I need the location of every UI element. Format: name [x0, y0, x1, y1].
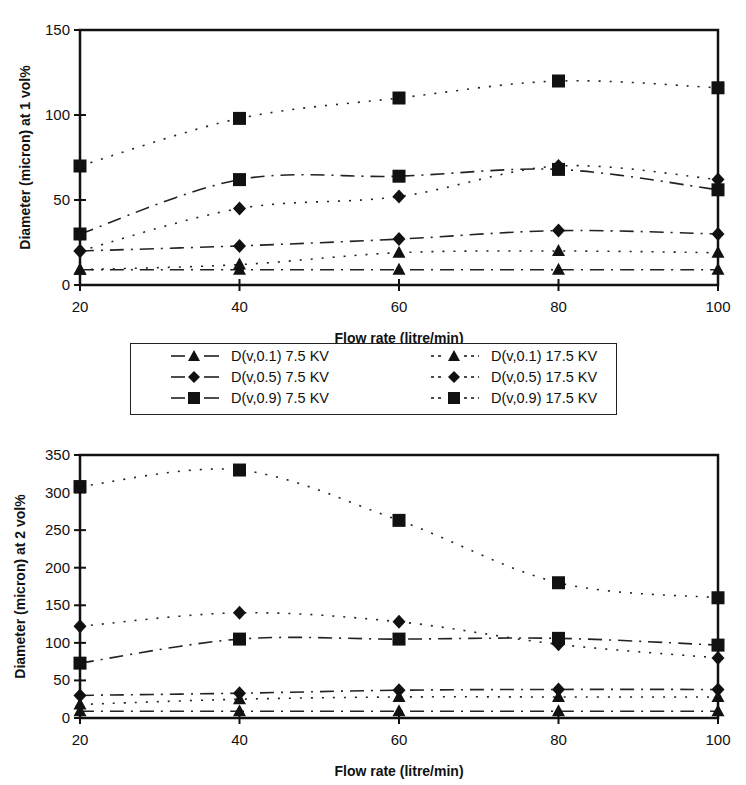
square-marker-icon: [393, 633, 406, 646]
legend: D(v,0.1) 7.5 KV D(v,0.1) 17.5 KV D(v,0.5…: [130, 343, 617, 415]
square-marker-icon: [233, 464, 246, 477]
y-tick-label: 0: [62, 709, 70, 726]
diamond-marker-icon: [712, 651, 725, 665]
triangle-marker-icon: [393, 263, 406, 275]
x-tick-label: 60: [391, 298, 408, 315]
legend-symbol-triangle-solid-icon: [169, 348, 231, 364]
legend-item-dv05-7.5kv: D(v,0.5) 7.5 KV: [169, 369, 329, 385]
square-marker-icon: [74, 160, 87, 173]
legend-symbol-diamond-solid-icon: [169, 369, 231, 385]
y-tick-label: 250: [45, 521, 70, 538]
triangle-marker-icon: [74, 697, 87, 709]
square-marker-icon: [712, 591, 725, 604]
series-0: [74, 704, 725, 716]
series-5: [74, 75, 725, 173]
legend-item-dv09-17.5kv: D(v,0.9) 17.5 KV: [429, 390, 597, 406]
legend-label: D(v,0.9) 17.5 KV: [491, 390, 597, 406]
y-tick-label: 100: [45, 106, 70, 123]
x-tick-label: 100: [705, 298, 730, 315]
chart-2-vol-percent: 05010015020025030035020406080100Flow rat…: [12, 446, 731, 779]
legend-symbol-square-solid-icon: [169, 390, 231, 406]
square-marker-icon: [74, 228, 87, 241]
x-tick-label: 80: [550, 298, 567, 315]
plot-frame: [80, 455, 718, 718]
triangle-marker-icon: [74, 263, 87, 275]
square-marker-icon: [552, 576, 565, 589]
diamond-marker-icon: [552, 224, 565, 238]
diamond-marker-icon: [233, 606, 246, 620]
y-tick-label: 200: [45, 559, 70, 576]
square-marker-icon: [712, 639, 725, 652]
series-2: [74, 632, 725, 670]
square-marker-icon: [74, 657, 87, 670]
diamond-marker-icon: [393, 232, 406, 246]
triangle-marker-icon: [712, 246, 725, 258]
square-marker-icon: [74, 480, 87, 493]
legend-symbol-diamond-dotted-icon: [429, 369, 491, 385]
legend-item-dv01-17.5kv: D(v,0.1) 17.5 KV: [429, 348, 597, 364]
x-tick-label: 20: [72, 298, 89, 315]
diamond-marker-icon: [712, 227, 725, 241]
series-0: [74, 263, 725, 275]
legend-symbol-triangle-dotted-icon: [429, 348, 491, 364]
square-marker-icon: [233, 633, 246, 646]
y-tick-label: 100: [45, 634, 70, 651]
y-tick-label: 50: [53, 671, 70, 688]
series-line: [80, 469, 718, 598]
y-tick-label: 300: [45, 484, 70, 501]
y-tick-label: 350: [45, 446, 70, 463]
x-tick-label: 80: [550, 731, 567, 748]
square-marker-icon: [712, 81, 725, 94]
square-marker-icon: [233, 173, 246, 186]
triangle-marker-icon: [712, 704, 725, 716]
triangle-marker-icon: [552, 704, 565, 716]
triangle-marker-icon: [712, 690, 725, 702]
diamond-marker-icon: [233, 202, 246, 216]
x-axis-label: Flow rate (litre/min): [334, 763, 463, 779]
square-marker-icon: [393, 170, 406, 183]
square-marker-icon: [393, 92, 406, 105]
triangle-marker-icon: [552, 690, 565, 702]
y-tick-label: 0: [62, 276, 70, 293]
y-tick-label: 150: [45, 21, 70, 38]
x-tick-label: 60: [391, 731, 408, 748]
legend-label: D(v,0.9) 7.5 KV: [231, 390, 329, 406]
triangle-marker-icon: [393, 246, 406, 258]
legend-label: D(v,0.1) 17.5 KV: [491, 348, 597, 364]
legend-item-dv01-7.5kv: D(v,0.1) 7.5 KV: [169, 348, 329, 364]
square-marker-icon: [552, 75, 565, 88]
diamond-marker-icon: [393, 615, 406, 629]
series-5: [74, 464, 725, 605]
triangle-marker-icon: [233, 258, 246, 270]
triangle-marker-icon: [393, 704, 406, 716]
diamond-marker-icon: [74, 619, 87, 633]
legend-item-dv09-7.5kv: D(v,0.9) 7.5 KV: [169, 390, 329, 406]
triangle-marker-icon: [233, 704, 246, 716]
legend-symbol-square-dotted-icon: [429, 390, 491, 406]
y-axis-label: Diameter (micron) at 1 vol%: [17, 65, 33, 250]
diamond-marker-icon: [233, 239, 246, 253]
legend-item-dv05-17.5kv: D(v,0.5) 17.5 KV: [429, 369, 597, 385]
diamond-marker-icon: [74, 244, 87, 258]
legend-label: D(v,0.5) 17.5 KV: [491, 369, 597, 385]
legend-label: D(v,0.5) 7.5 KV: [231, 369, 329, 385]
triangle-marker-icon: [552, 263, 565, 275]
triangle-marker-icon: [712, 263, 725, 275]
x-tick-label: 40: [231, 731, 248, 748]
square-marker-icon: [233, 112, 246, 125]
x-tick-label: 40: [231, 298, 248, 315]
diamond-marker-icon: [393, 190, 406, 204]
legend-label: D(v,0.1) 7.5 KV: [231, 348, 329, 364]
square-marker-icon: [393, 514, 406, 527]
x-tick-label: 20: [72, 731, 89, 748]
chart-1-vol-percent: 05010015020406080100Flow rate (litre/min…: [17, 21, 731, 346]
x-tick-label: 100: [705, 731, 730, 748]
y-axis-label: Diameter (micron) at 2 vol%: [12, 494, 28, 679]
triangle-marker-icon: [552, 244, 565, 256]
y-tick-label: 50: [53, 191, 70, 208]
y-tick-label: 150: [45, 596, 70, 613]
